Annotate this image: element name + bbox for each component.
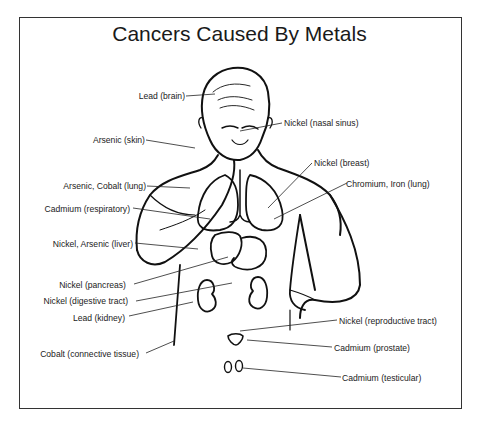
label-nickel-pancreas: Nickel (pancreas) bbox=[59, 281, 126, 290]
label-nickel-reproductive-tract: Nickel (reproductive tract) bbox=[339, 317, 437, 326]
kidney-left bbox=[198, 280, 216, 312]
label-lead-brain: Lead (brain) bbox=[139, 92, 185, 101]
label-cadmium-testicular: Cadmium (testicular) bbox=[342, 374, 421, 383]
label-chromium-iron-lung: Chromium, Iron (lung) bbox=[346, 180, 430, 189]
label-cadmium-respiratory: Cadmium (respiratory) bbox=[45, 205, 130, 214]
label-arsenic-cobalt-lung: Arsenic, Cobalt (lung) bbox=[63, 182, 146, 191]
liver bbox=[211, 232, 242, 264]
label-nickel-arsenic-liver: Nickel, Arsenic (liver) bbox=[53, 240, 133, 249]
label-nickel-nasal-sinus: Nickel (nasal sinus) bbox=[284, 119, 359, 128]
testicle-left bbox=[225, 362, 232, 373]
label-nickel-breast: Nickel (breast) bbox=[314, 159, 369, 168]
right-lung bbox=[246, 175, 283, 230]
label-nickel-digestive-tract: Nickel (digestive tract) bbox=[43, 297, 128, 306]
stomach bbox=[232, 237, 266, 270]
label-arsenic-skin: Arsenic (skin) bbox=[93, 136, 145, 145]
label-cobalt-connective-tissue: Cobalt (connective tissue) bbox=[40, 350, 139, 359]
kidney-right bbox=[249, 277, 267, 309]
label-cadmium-prostate: Cadmium (prostate) bbox=[334, 344, 410, 353]
prostate bbox=[228, 334, 243, 345]
label-lead-kidney: Lead (kidney) bbox=[73, 314, 125, 323]
testicle-right bbox=[236, 361, 243, 372]
head-outline bbox=[202, 68, 269, 160]
